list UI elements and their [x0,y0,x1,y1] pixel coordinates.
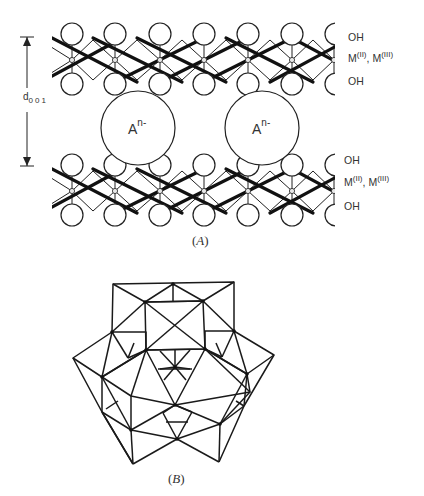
upper-metal-label: M(II), M(III) [348,53,393,64]
lower-metal-label: M(II), M(III) [344,177,389,188]
hydroxide-layer-lower [40,154,356,226]
basal-spacing-label: d001 [23,91,48,102]
caption-a: (A) [192,233,209,249]
anion-label-right: An- [252,121,270,137]
upper-oh-top-label: OH [348,32,364,43]
lower-oh-bottom-label: OH [344,201,360,212]
caption-b: (B) [168,471,185,487]
anion-label-left: An- [128,121,146,137]
upper-oh-bottom-label: OH [348,76,364,87]
hydroxide-layer-upper [40,23,356,95]
lower-oh-top-label: OH [344,155,360,166]
